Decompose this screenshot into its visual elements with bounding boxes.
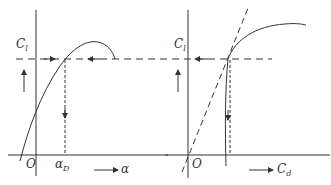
alpha-axis-label: α [121,163,129,175]
left-cl-label: Cl [16,38,28,53]
cd-axis-label: Cd [277,163,291,178]
alpha-d-label: αD [55,158,70,173]
lift-curve [20,42,115,161]
diagram-graphics [0,0,331,185]
drag-polar-curve [225,24,306,166]
tangent-dashed-line [182,8,248,172]
right-origin-label: O [192,158,202,170]
left-origin-label: O [26,158,36,170]
right-cl-label: Cl [174,38,186,53]
lift-drag-diagram: Cl O αD α Cl O Cd [0,0,331,185]
